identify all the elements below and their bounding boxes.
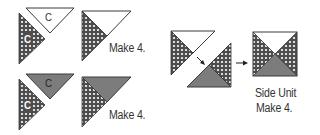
piece-label-c: C xyxy=(23,33,32,45)
make-count-label: Make 4. xyxy=(109,108,145,122)
diagonal-arrow-icon xyxy=(197,57,205,65)
side-unit-title: Side Unit xyxy=(255,86,296,100)
piece-label-c: C xyxy=(45,11,52,23)
piece-label-c: C xyxy=(23,99,32,111)
side-unit-assembly xyxy=(171,31,231,87)
finished-side-unit xyxy=(253,32,297,76)
side-unit-count: Make 4. xyxy=(256,101,292,115)
make-count-label: Make 4. xyxy=(109,41,145,55)
piece-label-c: C xyxy=(45,77,52,89)
arrow-right-icon xyxy=(236,61,248,66)
